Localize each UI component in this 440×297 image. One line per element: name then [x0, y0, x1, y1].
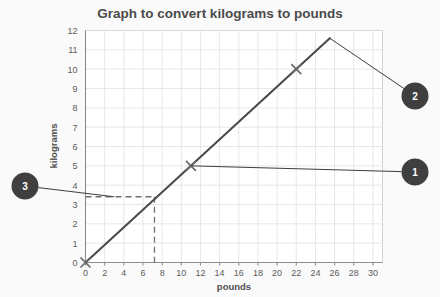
kilograms-to-pounds-chart: Graph to convert kilograms to pounds 024… — [0, 0, 440, 297]
x-tick-label: 16 — [234, 268, 244, 278]
x-tick-label: 30 — [368, 268, 378, 278]
x-tick-label: 12 — [195, 268, 205, 278]
callout-label-3: 3 — [22, 181, 28, 192]
x-tick-label: 26 — [330, 268, 340, 278]
x-tick-label: 20 — [272, 268, 282, 278]
y-tick-label: 10 — [67, 65, 77, 75]
x-axis-ticks: 024681012141618202224262830 — [83, 263, 378, 278]
y-tick-label: 5 — [72, 161, 77, 171]
y-tick-label: 7 — [72, 123, 77, 133]
page-title: Graph to convert kilograms to pounds — [97, 6, 342, 21]
x-tick-label: 14 — [215, 268, 225, 278]
y-tick-label: 0 — [72, 258, 77, 268]
callout-label-1: 1 — [412, 167, 418, 178]
y-axis-label: kilograms — [48, 124, 59, 169]
y-axis-ticks: 0123456789101112 — [67, 26, 77, 268]
x-tick-label: 4 — [121, 268, 126, 278]
x-tick-label: 10 — [176, 268, 186, 278]
chart-canvas: Graph to convert kilograms to pounds 024… — [0, 0, 440, 297]
x-tick-label: 24 — [310, 268, 320, 278]
y-tick-label: 4 — [72, 181, 77, 191]
y-tick-label: 9 — [72, 84, 77, 94]
x-tick-label: 28 — [349, 268, 359, 278]
x-tick-label: 0 — [83, 268, 88, 278]
y-tick-label: 12 — [67, 26, 77, 36]
callout-label-2: 2 — [412, 91, 418, 102]
y-tick-label: 6 — [72, 142, 77, 152]
y-tick-label: 3 — [72, 200, 77, 210]
y-tick-label: 11 — [68, 45, 77, 55]
x-tick-label: 18 — [253, 268, 263, 278]
x-tick-label: 8 — [160, 268, 165, 278]
y-tick-label: 1 — [72, 239, 77, 249]
x-tick-label: 2 — [102, 268, 107, 278]
x-axis-label: pounds — [217, 281, 251, 292]
x-tick-label: 6 — [140, 268, 145, 278]
y-tick-label: 8 — [72, 103, 77, 113]
x-tick-label: 22 — [291, 268, 301, 278]
y-tick-label: 2 — [72, 219, 77, 229]
